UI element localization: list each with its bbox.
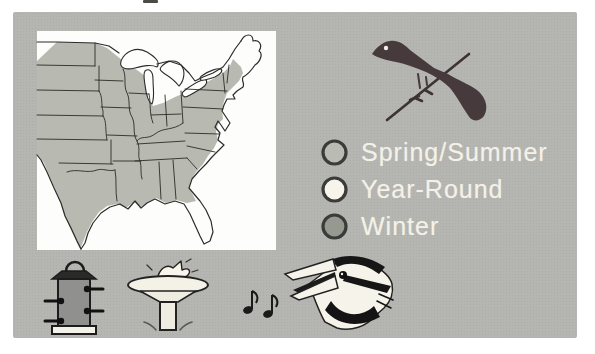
bird-bath-button[interactable] — [124, 258, 214, 336]
spring-summer-swatch-icon — [320, 138, 349, 167]
bird-silhouette-block — [370, 28, 502, 128]
season-legend: Spring/Summer Year-Round Winter — [320, 138, 570, 249]
legend-label-spring-summer: Spring/Summer — [361, 140, 548, 165]
year-round-swatch-icon — [320, 175, 349, 204]
range-map-panel — [37, 31, 276, 250]
bird-legs — [418, 74, 427, 88]
species-info-card: Spring/Summer Year-Round Winter — [13, 12, 577, 338]
singing-bird-head-icon — [279, 250, 399, 338]
legend-item-winter: Winter — [320, 212, 570, 241]
page: { "page": { "background": "#ffffff" }, "… — [0, 0, 595, 354]
legend-item-spring-summer: Spring/Summer — [320, 138, 570, 167]
music-notes-icon — [240, 280, 284, 320]
bird-bath-icon — [124, 258, 214, 336]
winter-swatch-icon — [320, 212, 349, 241]
bird-song-button[interactable] — [235, 248, 405, 340]
legend-label-winter: Winter — [361, 214, 439, 239]
legend-label-year-round: Year-Round — [361, 177, 504, 202]
tube-feeder-button[interactable] — [42, 254, 106, 340]
perched-bird-silhouette-icon — [370, 28, 502, 128]
legend-item-year-round: Year-Round — [320, 175, 570, 204]
tube-feeder-icon — [42, 254, 106, 340]
cropped-text-artifact — [143, 0, 158, 3]
bird-eye — [384, 46, 388, 50]
range-map — [37, 31, 276, 250]
